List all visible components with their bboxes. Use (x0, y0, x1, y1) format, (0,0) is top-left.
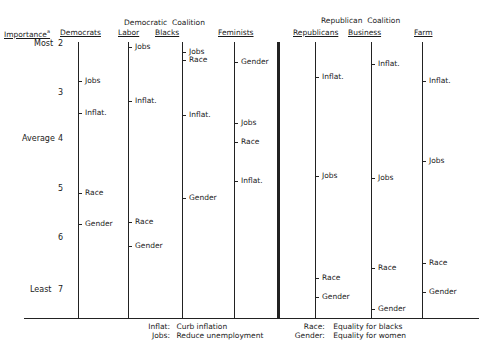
scale-least: Least (30, 285, 51, 294)
tick-mark (422, 81, 426, 82)
tick-mark (128, 47, 132, 48)
data-label-jobs: Jobs (378, 173, 393, 182)
scale-3: 3 (58, 88, 63, 97)
axis-line-democrats (78, 42, 79, 319)
data-label-inflat: Inflat. (429, 76, 451, 85)
coalition-label: Coalition (367, 16, 400, 25)
axis-line-business (371, 42, 372, 319)
group-label-republican: Republican Coalition (321, 16, 400, 25)
legend-key-gender: Gender: (289, 331, 325, 340)
scale-most: Most (34, 39, 53, 48)
tick-mark (234, 123, 238, 124)
data-label-inflat: Inflat. (135, 96, 157, 105)
column-header-republicans: Republicans (293, 28, 338, 37)
scale-5: 5 (58, 184, 63, 193)
coalition-divider (277, 42, 280, 319)
data-label-inflat: Inflat. (378, 59, 400, 68)
legend-text-gender: Equality for women (333, 331, 406, 340)
data-label-jobs: Jobs (241, 118, 256, 127)
tick-mark (78, 81, 82, 82)
data-label-jobs: Jobs (429, 156, 444, 165)
column-header-democrats: Democrats (60, 28, 101, 37)
column-header-blacks: Blacks (155, 28, 179, 37)
tick-mark (128, 222, 132, 223)
scale-4: 4 (58, 134, 63, 143)
axis-line-blacks (182, 42, 183, 319)
data-label-jobs: Jobs (135, 42, 150, 51)
group-label-coalition-dem: Coalition (172, 18, 205, 27)
tick-mark (371, 268, 375, 269)
tick-mark (182, 115, 186, 116)
tick-mark (315, 77, 319, 78)
column-header-labor: Labor (118, 28, 139, 37)
tick-mark (182, 52, 186, 53)
y-axis-title: Importancea (4, 28, 50, 39)
republican-label: Republican (321, 16, 362, 25)
data-label-jobs: Jobs (322, 171, 337, 180)
tick-mark (234, 62, 238, 63)
group-label-democratic: Democratic (124, 18, 167, 27)
legend-row-1: Inflat: Curb inflation Race: Equality fo… (140, 322, 406, 331)
axis-line-labor (128, 42, 129, 319)
data-label-inflat: Inflat. (189, 110, 211, 119)
legend-key-race: Race: (289, 322, 325, 331)
data-label-gender: Gender (241, 57, 269, 66)
data-label-race: Race (429, 258, 447, 267)
importance-label: Importance (4, 30, 47, 39)
data-label-gender: Gender (189, 193, 217, 202)
democratic-label: Democratic (124, 18, 167, 27)
data-label-gender: Gender (85, 219, 113, 228)
tick-mark (371, 309, 375, 310)
coalition-label: Coalition (172, 18, 205, 27)
tick-mark (128, 101, 132, 102)
x-baseline (24, 318, 479, 319)
column-header-feminists: Feminists (218, 28, 254, 37)
data-label-race: Race (189, 55, 207, 64)
tick-mark (78, 193, 82, 194)
scale-6: 6 (58, 233, 63, 242)
legend-row-2: Jobs: Reduce unemployment Gender: Equali… (140, 331, 406, 340)
tick-mark (371, 178, 375, 179)
scale-2: 2 (58, 39, 63, 48)
tick-mark (182, 198, 186, 199)
data-label-gender: Gender (378, 304, 406, 313)
tick-mark (315, 278, 319, 279)
legend: Inflat: Curb inflation Race: Equality fo… (140, 322, 406, 340)
data-label-race: Race (85, 188, 103, 197)
tick-mark (78, 113, 82, 114)
tick-mark (315, 176, 319, 177)
data-label-gender: Gender (322, 292, 350, 301)
data-label-inflat: Inflat. (322, 72, 344, 81)
legend-key-inflat: Inflat: (140, 322, 170, 331)
tick-mark (182, 60, 186, 61)
legend-text-jobs: Reduce unemployment (176, 331, 286, 340)
tick-mark (422, 161, 426, 162)
data-label-gender: Gender (135, 241, 163, 250)
tick-mark (315, 297, 319, 298)
tick-mark (234, 142, 238, 143)
data-label-race: Race (378, 263, 396, 272)
tick-mark (234, 181, 238, 182)
tick-mark (422, 292, 426, 293)
data-label-jobs: Jobs (85, 76, 100, 85)
data-label-race: Race (322, 273, 340, 282)
data-label-gender: Gender (429, 287, 457, 296)
column-header-business: Business (348, 28, 381, 37)
tick-mark (128, 246, 132, 247)
data-label-inflat: Inflat. (241, 176, 263, 185)
scale-average: Average (22, 134, 55, 143)
legend-text-race: Equality for blacks (333, 322, 402, 331)
tick-mark (78, 224, 82, 225)
axis-line-farm (422, 42, 423, 319)
tick-mark (422, 263, 426, 264)
legend-text-inflat: Curb inflation (176, 322, 286, 331)
scale-7: 7 (58, 285, 63, 294)
tick-mark (371, 64, 375, 65)
footnote-marker: a (47, 28, 50, 34)
data-label-race: Race (135, 217, 153, 226)
data-label-inflat: Inflat. (85, 108, 107, 117)
column-header-farm: Farm (414, 28, 432, 37)
legend-key-jobs: Jobs: (140, 331, 170, 340)
data-label-race: Race (241, 137, 259, 146)
